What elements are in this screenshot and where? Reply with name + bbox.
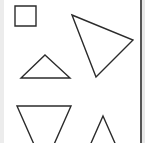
shapes-canvas (0, 0, 145, 143)
inverted-triangle-shape (17, 106, 71, 143)
large-triangle-shape (72, 15, 133, 77)
upright-triangle-shape (88, 116, 118, 143)
small-triangle-shape (21, 55, 70, 78)
right-gutter (142, 0, 145, 143)
square-shape (15, 6, 36, 26)
